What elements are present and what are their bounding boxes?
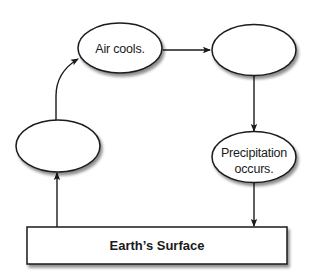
node-blank-top-right [212, 25, 296, 76]
node-air-cools: Air cools. [78, 23, 162, 73]
earth-surface-box: Earth’s Surface [27, 227, 287, 264]
arrow-node-1-to-node-2 [56, 59, 78, 120]
node-blank-bottom-left [16, 120, 100, 172]
water-cycle-diagram: Air cools. Precipitation occurs. Earth’s… [0, 0, 312, 278]
node-label-line-1: Precipitation [221, 146, 287, 160]
node-label: Air cools. [95, 42, 144, 56]
node-label-line-2: occurs. [235, 162, 274, 176]
node-precipitation-occurs: Precipitation occurs. [212, 132, 296, 183]
earth-surface-label: Earth’s Surface [110, 238, 205, 253]
